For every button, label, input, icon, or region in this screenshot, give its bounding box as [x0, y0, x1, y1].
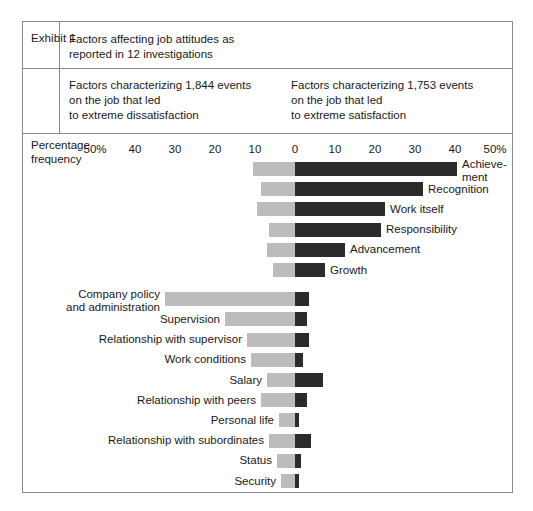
bar-row[interactable]: Responsibility — [23, 223, 514, 237]
dissatisfaction-bar-segment[interactable] — [253, 162, 295, 176]
satisfaction-bar-segment[interactable] — [295, 373, 323, 387]
bar-category-label-line: Relationship with peers — [137, 394, 256, 407]
satisfaction-bar-segment[interactable] — [295, 393, 307, 407]
bar-category-label-line: Status — [239, 454, 272, 467]
bar-row[interactable]: Achieve-ment — [23, 162, 514, 176]
satisfaction-bar-segment[interactable] — [295, 333, 309, 347]
dissatisfaction-bar-segment[interactable] — [225, 312, 295, 326]
bar-row[interactable]: Growth — [23, 263, 514, 277]
bar-category-label-line: Work conditions — [164, 353, 246, 366]
dissatisfaction-bar-segment[interactable] — [251, 353, 295, 367]
x-axis-tick: 50% — [483, 143, 506, 155]
x-axis-tick: 10 — [249, 143, 262, 155]
bar-row[interactable]: Security — [23, 474, 514, 488]
dissatisfaction-bar-segment[interactable] — [269, 434, 295, 448]
satisfaction-bar-segment[interactable] — [295, 454, 301, 468]
header-divider-2 — [23, 133, 512, 134]
bar-category-label-line: Growth — [330, 264, 367, 277]
dissatisfaction-column-note: Factors characterizing 1,844 events on t… — [69, 78, 251, 123]
dissatisfaction-bar-segment[interactable] — [261, 393, 295, 407]
satisfaction-bar-segment[interactable] — [295, 243, 345, 257]
satisfaction-bar-segment[interactable] — [295, 353, 303, 367]
x-axis-tick: 0 — [292, 143, 298, 155]
bar-row[interactable]: Relationship with peers — [23, 393, 514, 407]
bar-category-label: Status — [239, 454, 272, 467]
bar-category-label: Company policyand administration — [66, 288, 160, 313]
bar-category-label: Recognition — [428, 183, 489, 196]
bar-row[interactable]: Relationship with subordinates — [23, 434, 514, 448]
bar-row[interactable]: Work itself — [23, 202, 514, 216]
x-axis-tick: 50% — [83, 143, 106, 155]
exhibit-title-line-2: reported in 12 investigations — [69, 47, 234, 62]
bar-category-label: Advancement — [350, 243, 420, 256]
satisfaction-bar-segment[interactable] — [295, 182, 423, 196]
dissatisfaction-bar-segment[interactable] — [261, 182, 295, 196]
satisfaction-bar-segment[interactable] — [295, 223, 381, 237]
bar-category-label-line: ment — [462, 171, 507, 184]
bar-category-label: Relationship with subordinates — [108, 434, 264, 447]
bar-category-label-line: Responsibility — [386, 223, 457, 236]
dissatisfaction-bar-segment[interactable] — [279, 413, 295, 427]
satisfaction-bar-segment[interactable] — [295, 292, 309, 306]
bar-row[interactable]: Supervision — [23, 312, 514, 326]
bar-category-label-line: and administration — [66, 301, 160, 314]
bar-category-label: Security — [234, 475, 276, 488]
satisfaction-bar-segment[interactable] — [295, 474, 299, 488]
satisfaction-column-note: Factors characterizing 1,753 events on t… — [291, 78, 473, 123]
bar-row[interactable]: Status — [23, 454, 514, 468]
exhibit-title: Factors affecting job attitudes as repor… — [69, 32, 234, 62]
dissatisfaction-bar-segment[interactable] — [257, 202, 295, 216]
satisfaction-bar-segment[interactable] — [295, 413, 299, 427]
bar-category-label: Personal life — [211, 414, 274, 427]
bar-category-label: Salary — [229, 374, 262, 387]
dissatisfaction-note-line-3: to extreme dissatisfaction — [69, 108, 251, 123]
x-axis-ticks: 50%4030201001020304050% — [23, 143, 514, 159]
bar-category-label-line: Personal life — [211, 414, 274, 427]
bar-row[interactable]: Salary — [23, 373, 514, 387]
bar-category-label: Responsibility — [386, 223, 457, 236]
bar-category-label: Achieve-ment — [462, 158, 507, 183]
x-axis-tick: 40 — [449, 143, 462, 155]
bar-row[interactable]: Recognition — [23, 182, 514, 196]
bar-row[interactable]: Personal life — [23, 413, 514, 427]
dissatisfaction-bar-segment[interactable] — [247, 333, 295, 347]
x-axis-tick: 30 — [409, 143, 422, 155]
bar-row[interactable]: Company policyand administration — [23, 292, 514, 306]
bar-category-label-line: Salary — [229, 374, 262, 387]
dissatisfaction-note-line-2: on the job that led — [69, 93, 251, 108]
satisfaction-note-line-3: to extreme satisfaction — [291, 108, 473, 123]
bar-category-label: Relationship with supervisor — [99, 333, 242, 346]
bar-category-label-line: Achieve- — [462, 158, 507, 171]
header-divider-1 — [23, 68, 512, 69]
x-axis-tick: 40 — [129, 143, 142, 155]
bar-category-label-line: Advancement — [350, 243, 420, 256]
satisfaction-bar-segment[interactable] — [295, 312, 307, 326]
bar-category-label-line: Recognition — [428, 183, 489, 196]
x-axis-tick: 20 — [209, 143, 222, 155]
bar-category-label-line: Relationship with supervisor — [99, 333, 242, 346]
bar-category-label-line: Work itself — [390, 203, 443, 216]
satisfaction-bar-segment[interactable] — [295, 202, 385, 216]
x-axis-tick: 10 — [329, 143, 342, 155]
satisfaction-note-line-2: on the job that led — [291, 93, 473, 108]
satisfaction-note-line-1: Factors characterizing 1,753 events — [291, 78, 473, 93]
satisfaction-bar-segment[interactable] — [295, 162, 457, 176]
bar-category-label: Relationship with peers — [137, 394, 256, 407]
satisfaction-bar-segment[interactable] — [295, 263, 325, 277]
bar-category-label-line: Security — [234, 475, 276, 488]
dissatisfaction-bar-segment[interactable] — [273, 263, 295, 277]
dissatisfaction-bar-segment[interactable] — [165, 292, 295, 306]
bar-category-label-line: Relationship with subordinates — [108, 434, 264, 447]
dissatisfaction-bar-segment[interactable] — [267, 243, 295, 257]
exhibit-frame: Exhibit 1 Factors affecting job attitude… — [22, 21, 513, 493]
bar-row[interactable]: Work conditions — [23, 353, 514, 367]
dissatisfaction-bar-segment[interactable] — [277, 454, 295, 468]
bar-category-label-line: Company policy — [66, 288, 160, 301]
bar-row[interactable]: Relationship with supervisor — [23, 333, 514, 347]
dissatisfaction-bar-segment[interactable] — [269, 223, 295, 237]
dissatisfaction-bar-segment[interactable] — [281, 474, 295, 488]
bar-row[interactable]: Advancement — [23, 243, 514, 257]
satisfaction-bar-segment[interactable] — [295, 434, 311, 448]
dissatisfaction-bar-segment[interactable] — [267, 373, 295, 387]
bar-category-label-line: Supervision — [160, 313, 220, 326]
